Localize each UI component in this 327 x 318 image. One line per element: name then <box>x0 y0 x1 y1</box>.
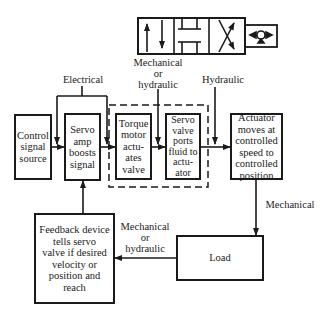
servo-amp-text: Servo amp boosts signal <box>69 124 96 170</box>
mechanical-label: Mechanical <box>260 199 320 210</box>
feedback-device-box: Feedback device tells servo valve if des… <box>34 213 115 304</box>
torque-motor-box: Torque motor actu- ates valve <box>115 113 152 180</box>
load-box: Load <box>176 235 264 281</box>
servo-valve-text: Servo valve ports fluid to actu- ator <box>168 115 197 178</box>
torque-motor-text: Torque motor actu- ates valve <box>119 118 149 176</box>
hydraulic-label: Hydraulic <box>195 74 251 85</box>
load-text: Load <box>209 252 231 264</box>
mechanical-or-hydraulic-top-label: Mechanical or hydraulic <box>128 57 188 90</box>
control-signal-source-text: Control signal source <box>17 130 49 165</box>
mechanical-or-hydraulic-bottom-label: Mechanical or hydraulic <box>115 221 175 254</box>
control-signal-source-box: Control signal source <box>14 114 52 180</box>
servo-valve-symbol-icon <box>138 18 277 54</box>
actuator-box: Actuator moves at controlled speed to co… <box>230 113 283 180</box>
servo-valve-box: Servo valve ports fluid to actu- ator <box>165 113 201 180</box>
actuator-text: Actuator moves at controlled speed to co… <box>235 112 278 181</box>
feedback-device-text: Feedback device tells servo valve if des… <box>39 224 109 293</box>
electrical-label: Electrical <box>55 74 111 85</box>
servo-amp-box: Servo amp boosts signal <box>64 113 101 181</box>
